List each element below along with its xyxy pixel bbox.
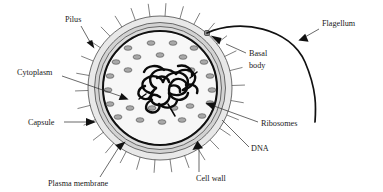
leader-dna [222, 120, 249, 147]
ribosome [208, 88, 216, 93]
ribosome [158, 120, 166, 125]
ribosome [114, 115, 122, 120]
label-ribosomes: Ribosomes [261, 119, 297, 128]
leader-plasma-membrane [100, 147, 119, 177]
ribosome [186, 104, 194, 109]
ribosome [179, 55, 187, 60]
figure-canvas: Pilus Cytoplasm Capsule Plasma membrane … [0, 0, 383, 192]
ribosome [178, 118, 186, 123]
ribosome [190, 46, 198, 51]
arrowhead-flagellum [298, 34, 308, 42]
label-pilus: Pilus [65, 15, 81, 24]
cytoplasm-layer [105, 33, 216, 144]
ribosome [112, 60, 120, 65]
arrowhead-pilus [87, 40, 95, 49]
ribosome [200, 60, 208, 65]
label-plasma-membrane: Plasma membrane [48, 179, 109, 188]
label-cytoplasm: Cytoplasm [17, 68, 53, 77]
label-capsule: Capsule [28, 118, 55, 127]
ribosome [198, 114, 206, 119]
leader-flagellum [305, 29, 319, 37]
ribosome [169, 41, 177, 46]
leader-basal-body [226, 44, 246, 53]
ribosome [147, 41, 155, 46]
ribosome [133, 55, 141, 60]
ribosome [124, 46, 132, 51]
label-dna: DNA [251, 144, 269, 153]
ribosome [106, 74, 114, 79]
ribosome [124, 68, 132, 73]
ribosome [206, 74, 214, 79]
label-cell-wall: Cell wall [196, 174, 227, 183]
arrowhead-capsule [86, 118, 96, 126]
label-flagellum: Flagellum [322, 19, 356, 28]
ribosome [136, 118, 144, 123]
ribosome [106, 102, 114, 107]
ribosome [148, 106, 156, 111]
label-basal-body-line2: body [249, 61, 266, 70]
leader-pilus [81, 26, 90, 42]
ribosome [156, 53, 164, 58]
label-basal-body-line1: Basal [249, 49, 268, 58]
bacterial-cell-diagram: Pilus Cytoplasm Capsule Plasma membrane … [0, 0, 383, 192]
ribosome [126, 106, 134, 111]
